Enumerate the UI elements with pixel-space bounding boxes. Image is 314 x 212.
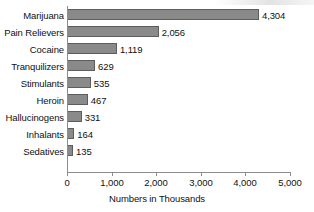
value-label-inhalants: 164: [77, 129, 93, 140]
category-label-stimulants: Stimulants: [0, 78, 64, 89]
bar-tranquilizers: [67, 60, 95, 71]
value-label-pain-relievers: 2,056: [162, 27, 185, 38]
value-label-heroin: 467: [91, 95, 107, 106]
bar-marijuana: [67, 9, 259, 20]
x-axis-tick-label: 1,000: [100, 177, 123, 188]
category-label-sedatives: Sedatives: [0, 146, 64, 157]
category-label-hallucinogens: Hallucinogens: [0, 112, 64, 123]
value-label-stimulants: 535: [94, 78, 110, 89]
x-axis-tick-label: 2,000: [144, 177, 167, 188]
category-label-heroin: Heroin: [0, 95, 64, 106]
value-label-hallucinogens: 331: [85, 112, 101, 123]
bar-inhalants: [67, 128, 74, 139]
x-axis-title: Numbers in Thousands: [0, 193, 314, 204]
x-axis-tick-label: 5,000: [278, 177, 301, 188]
bar-cocaine: [67, 43, 117, 54]
category-label-marijuana: Marijuana: [0, 10, 64, 21]
category-label-tranquilizers: Tranquilizers: [0, 61, 64, 72]
x-axis-tick: [245, 172, 246, 176]
y-axis-line: [67, 6, 68, 172]
x-axis-tick: [112, 172, 113, 176]
bar-stimulants: [67, 77, 91, 88]
scan-artifact: [215, 0, 314, 5]
bar-hallucinogens: [67, 111, 82, 122]
category-label-cocaine: Cocaine: [0, 44, 64, 55]
x-axis-line: [67, 172, 290, 173]
bar-heroin: [67, 94, 88, 105]
x-axis-tick-label: 3,000: [189, 177, 212, 188]
x-axis-tick-label: 0: [64, 177, 69, 188]
value-label-marijuana: 4,304: [262, 10, 285, 21]
category-label-pain-relievers: Pain Relievers: [0, 27, 64, 38]
bar-pain-relievers: [67, 26, 159, 37]
value-label-sedatives: 135: [76, 146, 92, 157]
value-label-cocaine: 1,119: [120, 44, 143, 55]
bar-chart: Marijuana Pain Relievers Cocaine Tranqui…: [0, 0, 314, 212]
x-axis-tick-label: 4,000: [233, 177, 256, 188]
x-axis-tick: [156, 172, 157, 176]
x-axis-tick: [67, 172, 68, 176]
x-axis-tick: [290, 172, 291, 176]
value-label-tranquilizers: 629: [98, 61, 114, 72]
category-label-inhalants: Inhalants: [0, 129, 64, 140]
x-axis-tick: [201, 172, 202, 176]
